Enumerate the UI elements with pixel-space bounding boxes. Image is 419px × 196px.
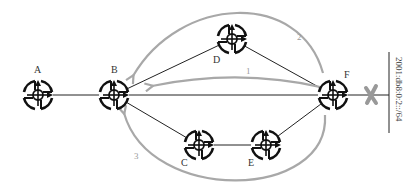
prefix-label: 2001:db8:0:2::/64 <box>394 57 403 122</box>
router-b-icon <box>99 80 129 110</box>
node-label-d: D <box>213 55 220 65</box>
reroute-label-1: 1 <box>246 67 251 76</box>
link-b-d <box>114 39 232 95</box>
reroute-label-2: 2 <box>297 33 302 42</box>
router-f-icon <box>318 80 348 110</box>
router-e-icon <box>251 130 281 160</box>
router-d-icon <box>217 24 247 54</box>
node-label-f: F <box>344 70 350 80</box>
reroute-arrow-1 <box>152 77 325 88</box>
router-c-icon <box>184 130 214 160</box>
node-label-c: C <box>181 158 188 168</box>
node-label-e: E <box>248 158 254 168</box>
reroute-label-3: 3 <box>134 152 139 161</box>
diagram-canvas <box>0 0 419 196</box>
network-diagram: A B C D E F 1 2 3 2001:db8:0:2::/64 <box>0 0 419 196</box>
router-a-icon <box>23 80 53 110</box>
node-label-a: A <box>34 65 41 75</box>
node-label-b: B <box>111 65 118 75</box>
